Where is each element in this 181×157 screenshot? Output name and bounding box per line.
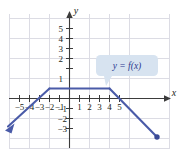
graph-figure: −5 −4 −3 −2 −1 1 2 3 4 5 5 4 3 2 1 −1 −2…	[0, 0, 181, 157]
x-tick-label: 2	[87, 102, 92, 112]
y-tick-label: −1	[57, 104, 67, 114]
coordinate-plane-svg: −5 −4 −3 −2 −1 1 2 3 4 5 5 4 3 2 1 −1 −2…	[0, 0, 181, 157]
x-tick-label: 4	[107, 102, 112, 112]
curve-right-endpoint-dot	[154, 134, 159, 139]
x-axis-label: x	[171, 87, 177, 98]
y-axis-label: y	[73, 5, 79, 16]
y-tick-label: 2	[59, 54, 64, 64]
x-tick-label: 1	[77, 102, 82, 112]
x-tick-label: −3	[35, 102, 45, 112]
y-tick-label: −3	[57, 124, 67, 134]
y-tick-label: −2	[57, 114, 67, 124]
y-tick-label: 5	[59, 24, 64, 34]
x-tick-label: 5	[117, 102, 122, 112]
y-tick-label: 4	[59, 34, 64, 44]
x-tick-label: −5	[15, 102, 25, 112]
callout-label: y = f(x)	[112, 61, 142, 72]
x-tick-label: 3	[97, 102, 102, 112]
y-tick-label: 1	[59, 74, 64, 84]
y-tick-label: 3	[59, 44, 64, 54]
x-tick-label: −2	[45, 102, 55, 112]
